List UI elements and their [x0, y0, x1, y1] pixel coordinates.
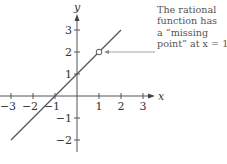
- x-tick-label: 1: [96, 100, 103, 113]
- x-axis: −3−2−1123 x: [0, 90, 165, 114]
- y-axis-label: y: [73, 1, 81, 14]
- y-tick-label: 1: [65, 68, 72, 81]
- x-tick-label: 3: [140, 100, 147, 113]
- y-axis-arrow-icon: [75, 14, 80, 21]
- annotation-text: The rational function has a “missing poi…: [157, 4, 227, 50]
- y-axis: −2−1123 y: [56, 1, 81, 152]
- x-tick-label: 2: [118, 100, 125, 113]
- y-tick-label: 3: [65, 24, 72, 37]
- y-tick-label: −1: [56, 112, 72, 125]
- y-tick-label: −2: [56, 134, 72, 147]
- annotation-line-4: point” at x = 1.: [157, 38, 227, 49]
- x-axis-arrow-icon: [148, 94, 155, 99]
- x-tick-label: −2: [22, 100, 38, 113]
- x-tick-label: −3: [0, 100, 16, 113]
- annotation-line-3: a “missing: [157, 27, 227, 38]
- missing-point-marker: [96, 49, 102, 55]
- x-axis-label: x: [158, 90, 165, 103]
- annotation-line-1: The rational: [157, 4, 227, 15]
- leader-arrow-icon: [104, 50, 109, 54]
- annotation-line-2: function has: [157, 15, 227, 26]
- y-tick-label: 2: [65, 46, 72, 59]
